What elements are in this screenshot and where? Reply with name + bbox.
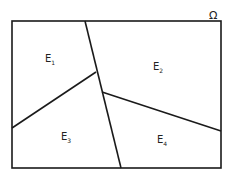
region-e1-label: E1	[45, 53, 55, 66]
region-e4-label: E4	[157, 134, 167, 147]
region-e2-label: E2	[153, 61, 163, 74]
omega-label: Ω	[209, 9, 217, 22]
divider-main	[85, 21, 121, 168]
partition-diagram: Ω E1 E2 E3 E4	[0, 0, 232, 178]
domain-boundary	[12, 21, 221, 168]
divider-left	[12, 72, 96, 128]
divider-right	[102, 92, 221, 131]
region-e3-label: E3	[61, 131, 71, 144]
